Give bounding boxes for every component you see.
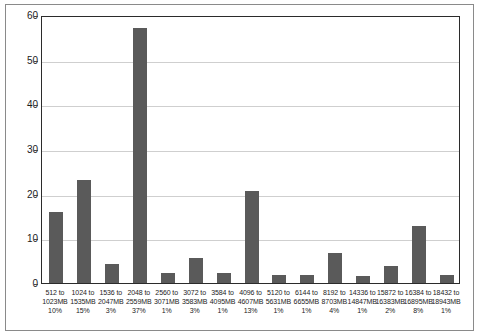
bar (440, 275, 454, 283)
x-axis-tick-label-line: 1% (430, 306, 462, 315)
bar (49, 212, 63, 283)
bar (245, 191, 259, 283)
bar (384, 266, 398, 283)
bar (217, 273, 231, 283)
x-axis-tick-label-line: 18432 to (430, 288, 462, 297)
bar (412, 226, 426, 283)
y-axis: 0102030405060 (12, 16, 38, 284)
x-axis: 512 to1023MB10%1024 to1535MB15%1536 to20… (41, 288, 460, 328)
bar (77, 180, 91, 283)
y-axis-tick-mark (34, 195, 38, 196)
y-axis-tick-mark (34, 239, 38, 240)
x-axis-tick-label-line: 18943MB (430, 297, 462, 306)
bar-series (42, 17, 459, 283)
bar (133, 28, 147, 283)
bar (161, 273, 175, 283)
x-axis-tick-label: 18432 to18943MB1% (430, 288, 462, 316)
y-axis-tick-mark (34, 150, 38, 151)
bar (356, 276, 370, 283)
chart-figure: 0102030405060 512 to1023MB10%1024 to1535… (0, 0, 479, 336)
bar (189, 258, 203, 283)
y-axis-tick-mark (34, 284, 38, 285)
bar (272, 275, 286, 283)
y-axis-tick-mark (34, 105, 38, 106)
bar (105, 264, 119, 283)
y-axis-tick-mark (34, 16, 38, 17)
y-axis-tick-mark (34, 61, 38, 62)
plot-area (41, 16, 460, 284)
bar (328, 253, 342, 283)
bar (300, 275, 314, 283)
